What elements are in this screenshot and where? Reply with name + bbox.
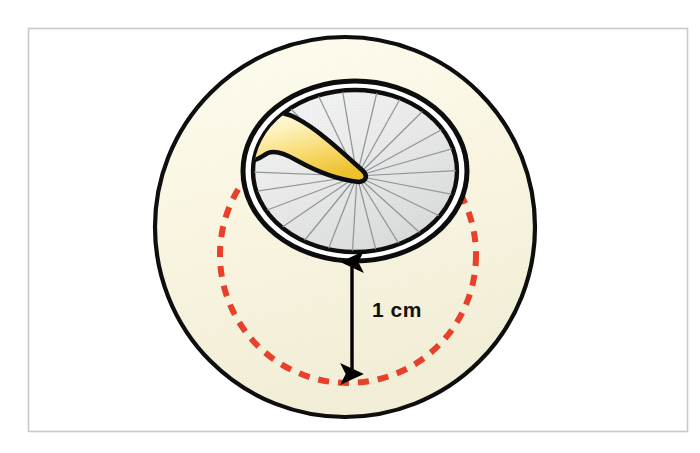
scale-label: 1 cm [372, 298, 422, 322]
optic-disc-diagram [0, 0, 700, 453]
figure-root: 1 cm [0, 0, 700, 453]
optic-disc [243, 81, 467, 261]
